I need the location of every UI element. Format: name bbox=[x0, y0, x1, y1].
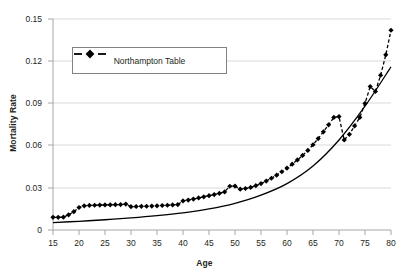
y-tick-label: 0 bbox=[8, 225, 42, 235]
diamond-marker-icon bbox=[118, 202, 123, 207]
mortality-rate-chart: 0.15 0.12 0.09 0.06 0.03 0 15 20 25 30 3… bbox=[0, 0, 409, 275]
diamond-marker-icon bbox=[258, 181, 263, 186]
legend-entry-northampton-table: Northampton Table bbox=[73, 48, 226, 73]
diamond-marker-icon bbox=[388, 28, 393, 33]
diamond-marker-icon bbox=[108, 202, 113, 207]
y-tick-label: 0.15 bbox=[8, 14, 42, 24]
diamond-marker-icon bbox=[212, 192, 217, 197]
diamond-marker-icon bbox=[362, 101, 367, 106]
diamond-marker-icon bbox=[102, 202, 107, 207]
diamond-marker-icon bbox=[123, 202, 128, 207]
diamond-marker-icon bbox=[201, 194, 206, 199]
x-tick-marks bbox=[53, 230, 391, 235]
x-tick-label: 80 bbox=[376, 238, 406, 248]
diamond-marker-icon bbox=[196, 195, 201, 200]
diamond-marker-icon bbox=[279, 169, 284, 174]
diamond-marker-icon bbox=[50, 215, 55, 220]
y-axis-title: Mortality Rate bbox=[8, 88, 18, 158]
diamond-marker-icon bbox=[206, 193, 211, 198]
diamond-marker-icon bbox=[139, 204, 144, 209]
legend: Northampton Table bbox=[72, 47, 227, 74]
gridlines bbox=[53, 19, 391, 188]
diamond-marker-icon bbox=[170, 202, 175, 207]
diamond-marker-icon bbox=[243, 186, 248, 191]
diamond-marker-icon bbox=[217, 191, 222, 196]
diamond-marker-icon bbox=[305, 148, 310, 153]
chart-canvas bbox=[0, 0, 409, 275]
diamond-marker-icon bbox=[86, 50, 95, 59]
diamond-marker-icon bbox=[383, 52, 388, 57]
diamond-marker-icon bbox=[347, 132, 352, 137]
diamond-marker-icon bbox=[76, 205, 81, 210]
diamond-marker-icon bbox=[248, 185, 253, 190]
diamond-marker-icon bbox=[284, 166, 289, 171]
diamond-marker-icon bbox=[134, 204, 139, 209]
diamond-marker-icon bbox=[56, 215, 61, 220]
diamond-marker-icon bbox=[238, 187, 243, 192]
diamond-marker-icon bbox=[191, 196, 196, 201]
diamond-marker-icon bbox=[160, 203, 165, 208]
diamond-marker-icon bbox=[154, 203, 159, 208]
diamond-marker-icon bbox=[92, 203, 97, 208]
y-tick-label: 0.12 bbox=[8, 56, 42, 66]
diamond-marker-icon bbox=[180, 198, 185, 203]
diamond-marker-icon bbox=[149, 203, 154, 208]
diamond-marker-icon bbox=[186, 197, 191, 202]
y-tick-marks bbox=[48, 19, 53, 230]
y-tick-label: 0.03 bbox=[8, 183, 42, 193]
diamond-marker-icon bbox=[87, 203, 92, 208]
diamond-marker-icon bbox=[97, 203, 102, 208]
diamond-marker-icon bbox=[144, 204, 149, 209]
diamond-marker-icon bbox=[264, 178, 269, 183]
diamond-marker-icon bbox=[61, 215, 66, 220]
diamond-marker-icon bbox=[336, 114, 341, 119]
legend-label: Northampton Table bbox=[114, 56, 186, 66]
diamond-marker-icon bbox=[128, 204, 133, 209]
diamond-marker-icon bbox=[82, 203, 87, 208]
diamond-marker-icon bbox=[113, 202, 118, 207]
x-axis-title: Age bbox=[0, 258, 409, 268]
diamond-marker-icon bbox=[378, 73, 383, 78]
legend-line-sample bbox=[73, 48, 113, 60]
diamond-marker-icon bbox=[165, 203, 170, 208]
